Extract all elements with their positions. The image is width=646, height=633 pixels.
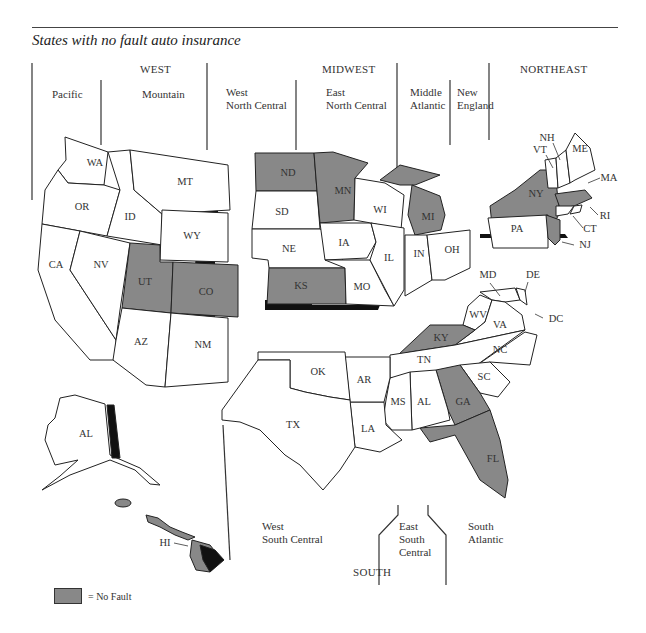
noncontiguous-states (42, 395, 224, 572)
label-ct: CT (583, 223, 597, 234)
state-me (566, 133, 595, 183)
label-ca: CA (49, 259, 64, 270)
label-dc: DC (549, 313, 564, 324)
label-co: CO (199, 286, 214, 297)
state-mi-upper (380, 165, 440, 185)
label-in: IN (413, 248, 424, 259)
label-ga: GA (455, 396, 471, 407)
state-mi (408, 185, 445, 235)
label-mn: MN (335, 185, 352, 196)
label-nd: ND (280, 167, 296, 178)
label-mo: MO (354, 281, 371, 292)
label-al: AL (417, 396, 431, 407)
legend-swatch-no-fault (54, 588, 82, 604)
label-nc: NC (493, 344, 508, 355)
label-de: DE (526, 269, 540, 280)
label-ne: NE (282, 243, 296, 254)
label-nv: NV (93, 259, 109, 270)
state-oh (427, 230, 470, 280)
map-figure: States with no fault auto insurance WEST… (0, 0, 646, 633)
label-id: ID (124, 211, 135, 222)
label-sc: SC (478, 371, 491, 382)
label-or: OR (75, 201, 90, 212)
label-wv: WV (469, 309, 487, 320)
label-mt: MT (177, 176, 193, 187)
state-az (113, 308, 171, 387)
label-me: ME (572, 143, 588, 154)
label-hi: HI (159, 537, 171, 548)
legend-label: = No Fault (88, 591, 131, 602)
label-vt: VT (533, 144, 548, 155)
label-wi: WI (373, 204, 387, 215)
label-ri: RI (600, 210, 611, 221)
label-la: LA (361, 423, 375, 434)
state-hi-kauai (115, 499, 131, 507)
label-ak: AL (79, 428, 93, 439)
label-ks: KS (294, 280, 308, 291)
label-tx: TX (286, 419, 300, 430)
label-ok: OK (310, 366, 326, 377)
label-wa: WA (87, 157, 104, 168)
label-fl: FL (487, 453, 499, 464)
label-va: VA (493, 319, 507, 330)
label-ut: UT (138, 276, 153, 287)
label-nm: NM (195, 339, 213, 350)
us-map: WA OR CA NV ID MT WY UT CO AZ NM ND SD N… (0, 0, 646, 633)
label-ny: NY (528, 188, 544, 199)
label-ms: MS (390, 396, 405, 407)
label-tn: TN (417, 354, 431, 365)
label-nj: NJ (579, 239, 591, 250)
state-nm (165, 313, 228, 387)
label-nh: NH (539, 132, 555, 143)
label-sd: SD (275, 206, 289, 217)
state-ma (555, 190, 592, 208)
label-mi: MI (422, 211, 435, 222)
legend: = No Fault (54, 588, 131, 604)
label-ky: KY (433, 332, 449, 343)
label-az: AZ (134, 336, 148, 347)
label-il: IL (384, 252, 394, 263)
label-ar: AR (357, 374, 372, 385)
south-states (222, 288, 537, 498)
label-wy: WY (183, 230, 201, 241)
state-ak (42, 395, 160, 490)
label-oh: OH (444, 244, 460, 255)
label-md: MD (480, 269, 497, 280)
label-ia: IA (338, 237, 349, 248)
label-pa: PA (511, 223, 524, 234)
label-ma: MA (601, 172, 618, 183)
